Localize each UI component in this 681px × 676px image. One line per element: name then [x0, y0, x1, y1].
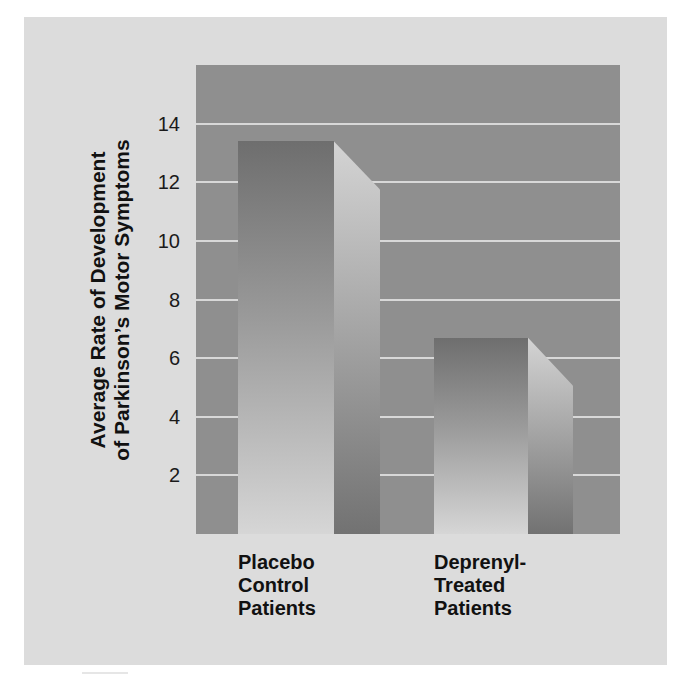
y-tick-label: 2 — [130, 465, 180, 485]
y-tick-label: 12 — [130, 172, 180, 192]
x-label-line: Control — [238, 574, 316, 597]
y-tick-label: 10 — [130, 231, 180, 251]
x-label-line: Patients — [238, 597, 316, 620]
y-tick-label: 14 — [130, 114, 180, 134]
footer-mark — [82, 672, 128, 674]
y-tick-label: 4 — [130, 407, 180, 427]
x-label-deprenyl: Deprenyl- Treated Patients — [434, 551, 526, 620]
bar-front — [238, 141, 334, 534]
bar-side — [334, 141, 380, 534]
y-axis-label-line-2: of Parkinson’s Motor Symptoms — [110, 90, 134, 510]
y-tick-label: 8 — [130, 290, 180, 310]
x-label-line: Patients — [434, 597, 526, 620]
y-axis-label: Average Rate of Development of Parkinson… — [86, 90, 134, 510]
x-label-placebo: Placebo Control Patients — [238, 551, 316, 620]
bar-front — [434, 338, 528, 534]
x-label-line: Treated — [434, 574, 526, 597]
x-label-line: Placebo — [238, 551, 316, 574]
x-label-line: Deprenyl- — [434, 551, 526, 574]
y-tick-label: 6 — [130, 348, 180, 368]
y-axis-label-line-1: Average Rate of Development — [86, 90, 110, 510]
gridline — [196, 123, 620, 125]
